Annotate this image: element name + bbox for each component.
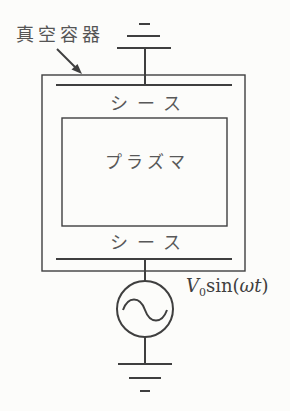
pointer-arrow-icon	[57, 49, 82, 74]
sine-wave-icon	[123, 300, 167, 321]
diagram-linework	[0, 0, 290, 411]
plasma-box	[62, 118, 227, 226]
ground-symbol-top	[117, 24, 171, 85]
plasma-label: プラズマ	[101, 154, 189, 171]
voltage-function: sin(	[206, 275, 240, 296]
plasma-chamber-diagram: 真空容器 シース プラズマ シース V0sin(ωt)	[0, 0, 290, 411]
ac-source-symbol	[117, 281, 173, 337]
voltage-source-label: V0sin(ωt)	[186, 277, 269, 295]
ground-symbol-bottom	[118, 364, 172, 391]
sheath-top-label: シース	[101, 95, 190, 113]
voltage-close-paren: )	[262, 275, 269, 296]
voltage-subscript: 0	[199, 286, 206, 299]
voltage-symbol: V	[186, 275, 199, 296]
sheath-bottom-label: シース	[101, 234, 190, 252]
vacuum-vessel-label: 真空容器	[16, 26, 104, 44]
voltage-argument: ωt	[240, 275, 262, 296]
